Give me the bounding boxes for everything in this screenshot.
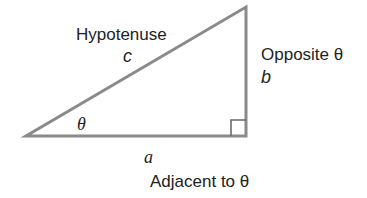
right-angle-marker bbox=[231, 120, 246, 136]
opposite-label: Opposite θ bbox=[261, 45, 343, 64]
adjacent-variable: a bbox=[144, 147, 153, 167]
adjacent-label: Adjacent to θ bbox=[150, 172, 249, 191]
opposite-variable: b bbox=[261, 67, 271, 87]
angle-theta-symbol: θ bbox=[77, 114, 86, 134]
right-triangle-diagram: Hypotenuse c Opposite θ b θ a Adjacent t… bbox=[0, 0, 367, 198]
hypotenuse-label: Hypotenuse bbox=[76, 25, 167, 44]
hypotenuse-variable: c bbox=[123, 46, 132, 66]
